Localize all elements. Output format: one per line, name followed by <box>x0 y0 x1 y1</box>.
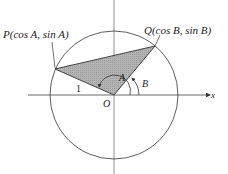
label-angle-A: A <box>118 72 126 83</box>
label-radius: 1 <box>76 83 81 94</box>
unit-circle-diagram: P(cos A, sin A) Q(cos B, sin B) A B O 1 … <box>0 0 228 174</box>
P-leader <box>52 42 55 68</box>
angle-B-arc <box>132 78 139 95</box>
triangle-OPQ <box>55 46 155 95</box>
label-angle-B: B <box>142 78 148 89</box>
label-x-axis: x <box>210 90 215 100</box>
label-P: P(cos A, sin A) <box>2 28 69 41</box>
label-origin: O <box>103 98 110 109</box>
Q-leader <box>155 35 160 46</box>
label-Q: Q(cos B, sin B) <box>144 24 212 37</box>
